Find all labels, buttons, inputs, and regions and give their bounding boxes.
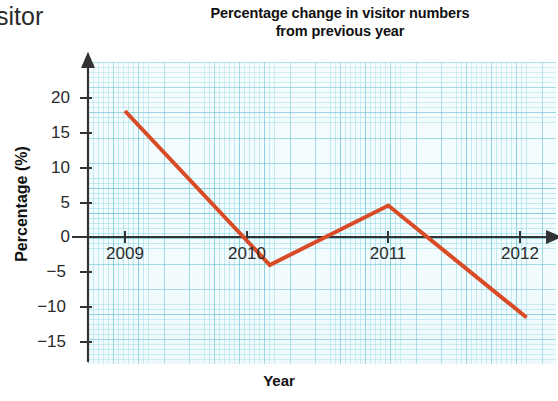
y-axis-ticks <box>80 98 92 342</box>
x-tick-label-2009: 2009 <box>90 244 160 264</box>
x-tick-label-2011: 2011 <box>353 244 423 264</box>
y-axis-title: Percentage (%) <box>13 104 31 304</box>
x-axis-title: Year <box>229 372 329 389</box>
data-series-line <box>125 111 527 318</box>
y-tick-label-neg15: −15 <box>10 332 66 352</box>
x-tick-label-2012: 2012 <box>485 244 555 264</box>
x-tick-label-2010: 2010 <box>212 244 282 264</box>
chart-canvas <box>0 0 558 401</box>
